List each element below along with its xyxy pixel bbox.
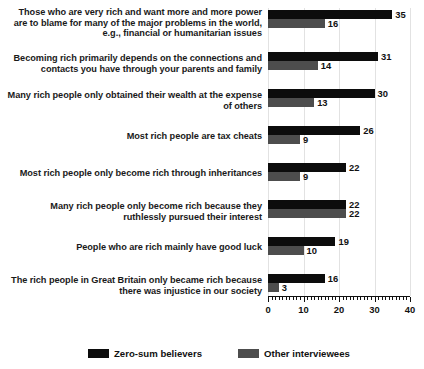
x-tick-label: 30 xyxy=(369,304,379,315)
bar-other-interviewees[interactable] xyxy=(268,283,279,292)
bar-value-label: 9 xyxy=(303,171,308,182)
category-label: The rich people in Great Britain only be… xyxy=(6,275,262,296)
bar-zero-sum-believers[interactable] xyxy=(268,237,335,246)
bar-row: Those who are very rich and want more an… xyxy=(0,10,424,30)
bar-value-label: 9 xyxy=(303,134,308,145)
minor-tick xyxy=(293,297,294,300)
minor-tick xyxy=(307,297,308,300)
chart-legend: Zero-sum believersOther interviewees xyxy=(0,348,424,362)
bar-group: 163 xyxy=(268,274,410,292)
bar-group: 3516 xyxy=(268,10,410,28)
minor-tick xyxy=(353,297,354,300)
bar-slot: 30 xyxy=(268,89,410,98)
minor-tick xyxy=(367,297,368,300)
bar-zero-sum-believers[interactable] xyxy=(268,126,360,135)
minor-tick xyxy=(328,297,329,300)
bar-slot: 3 xyxy=(268,283,410,292)
bar-row: The rich people in Great Britain only be… xyxy=(0,274,424,294)
bar-group: 1910 xyxy=(268,237,410,255)
minor-tick xyxy=(396,297,397,300)
bar-slot: 26 xyxy=(268,126,410,135)
bar-other-interviewees[interactable] xyxy=(268,19,325,28)
bar-value-label: 16 xyxy=(328,273,338,284)
minor-tick xyxy=(314,297,315,300)
bar-slot: 14 xyxy=(268,61,410,70)
category-label: Those who are very rich and want more an… xyxy=(6,7,262,39)
bar-slot: 22 xyxy=(268,209,410,218)
bar-group: 269 xyxy=(268,126,410,144)
bar-slot: 35 xyxy=(268,10,410,19)
minor-tick xyxy=(343,297,344,300)
minor-tick xyxy=(318,297,319,300)
minor-tick xyxy=(311,297,312,300)
bar-other-interviewees[interactable] xyxy=(268,246,304,255)
minor-tick xyxy=(321,297,322,300)
minor-tick xyxy=(350,297,351,300)
bar-zero-sum-believers[interactable] xyxy=(268,274,325,283)
bar-zero-sum-believers[interactable] xyxy=(268,200,346,209)
bar-value-label: 30 xyxy=(378,88,388,99)
bar-slot: 22 xyxy=(268,200,410,209)
bar-value-label: 10 xyxy=(307,245,317,256)
minor-tick xyxy=(275,297,276,300)
minor-tick xyxy=(378,297,379,300)
x-tick-label: 10 xyxy=(298,304,308,315)
minor-tick xyxy=(300,297,301,300)
legend-item[interactable]: Zero-sum believers xyxy=(88,348,202,359)
minor-tick xyxy=(332,297,333,300)
major-tick xyxy=(375,297,376,302)
bar-slot: 19 xyxy=(268,237,410,246)
bar-value-label: 22 xyxy=(349,208,359,219)
bar-slot: 16 xyxy=(268,274,410,283)
bar-value-label: 16 xyxy=(328,18,338,29)
bar-value-label: 14 xyxy=(321,60,331,71)
bar-slot: 10 xyxy=(268,246,410,255)
major-tick xyxy=(304,297,305,302)
bar-group: 3114 xyxy=(268,52,410,70)
minor-tick xyxy=(325,297,326,300)
minor-tick xyxy=(282,297,283,300)
category-label: Most rich people only become rich throug… xyxy=(6,168,262,179)
legend-item[interactable]: Other interviewees xyxy=(238,348,350,359)
square-swatch-icon xyxy=(238,349,259,358)
bar-slot: 13 xyxy=(268,98,410,107)
minor-tick xyxy=(360,297,361,300)
bar-value-label: 22 xyxy=(349,162,359,173)
major-tick xyxy=(410,297,411,302)
bar-row: Most rich people only become rich throug… xyxy=(0,163,424,183)
bar-row: People who are rich mainly have good luc… xyxy=(0,237,424,257)
bar-other-interviewees[interactable] xyxy=(268,61,318,70)
minor-tick xyxy=(403,297,404,300)
minor-tick xyxy=(346,297,347,300)
bar-value-label: 13 xyxy=(317,97,327,108)
minor-tick xyxy=(296,297,297,300)
bar-slot: 9 xyxy=(268,135,410,144)
category-label: Many rich people only obtained their wea… xyxy=(6,90,262,111)
bar-row: Many rich people only obtained their wea… xyxy=(0,89,424,109)
horizontal-bar-chart: Those who are very rich and want more an… xyxy=(0,0,424,369)
bar-slot: 16 xyxy=(268,19,410,28)
legend-label: Zero-sum believers xyxy=(114,348,202,359)
x-tick-label: 20 xyxy=(334,304,344,315)
minor-tick xyxy=(399,297,400,300)
bar-group: 3013 xyxy=(268,89,410,107)
bar-group: 229 xyxy=(268,163,410,181)
minor-tick xyxy=(272,297,273,300)
bar-row: Many rich people only become rich becaus… xyxy=(0,200,424,220)
x-tick-label: 0 xyxy=(265,304,270,315)
legend-label: Other interviewees xyxy=(264,348,350,359)
bar-value-label: 3 xyxy=(282,282,287,293)
bar-group: 2222 xyxy=(268,200,410,218)
bar-slot: 9 xyxy=(268,172,410,181)
major-tick xyxy=(339,297,340,302)
minor-tick xyxy=(382,297,383,300)
bar-value-label: 31 xyxy=(381,51,391,62)
bar-other-interviewees[interactable] xyxy=(268,98,314,107)
bar-row: Becoming rich primarily depends on the c… xyxy=(0,52,424,72)
bar-other-interviewees[interactable] xyxy=(268,172,300,181)
minor-tick xyxy=(357,297,358,300)
category-label: Becoming rich primarily depends on the c… xyxy=(6,53,262,74)
bar-other-interviewees[interactable] xyxy=(268,135,300,144)
bar-slot: 22 xyxy=(268,163,410,172)
bar-other-interviewees[interactable] xyxy=(268,209,346,218)
